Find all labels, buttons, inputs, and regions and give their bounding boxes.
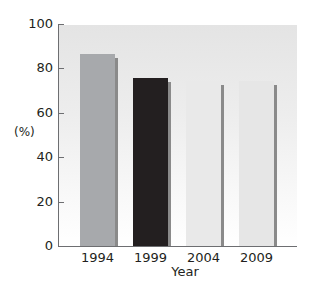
bar-2004 [186, 81, 221, 247]
bar-shadow [221, 85, 224, 247]
y-tick [58, 157, 64, 158]
x-tick-label: 2009 [232, 250, 282, 265]
y-tick-label: 80 [3, 61, 53, 75]
y-tick-label: 0 [3, 239, 53, 253]
bar-shadow [274, 85, 277, 247]
y-tick-label: 20 [3, 195, 53, 209]
bar-1994 [80, 54, 115, 246]
x-axis [58, 246, 297, 247]
y-tick-label: 60 [3, 106, 53, 120]
y-tick [58, 113, 64, 114]
x-tick-label: 1999 [126, 250, 176, 265]
y-tick-label: 40 [3, 150, 53, 164]
bar-1999 [133, 78, 168, 246]
y-axis-label: (%) [14, 125, 35, 139]
x-tick-label: 2004 [179, 250, 229, 265]
x-axis-label: Year [160, 264, 210, 279]
y-tick [58, 68, 64, 69]
y-tick-label: 100 [3, 17, 53, 31]
x-tick-label: 1994 [73, 250, 123, 265]
y-axis [58, 25, 59, 247]
bar-shadow [115, 58, 118, 246]
bar-2009 [239, 81, 274, 247]
bar-shadow [168, 82, 171, 246]
y-tick [58, 202, 64, 203]
y-tick [58, 24, 64, 25]
y-tick [58, 246, 64, 247]
